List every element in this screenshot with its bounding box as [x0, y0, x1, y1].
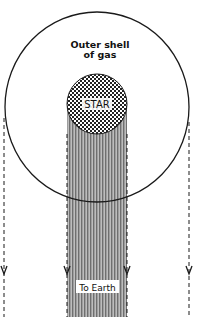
- to-earth-label: To Earth: [78, 283, 115, 293]
- star-shell-diagram: STAR Outer shell of gas To Earth: [0, 0, 197, 330]
- outer-shell-label-line2: of gas: [84, 49, 117, 60]
- star-label: STAR: [84, 99, 110, 110]
